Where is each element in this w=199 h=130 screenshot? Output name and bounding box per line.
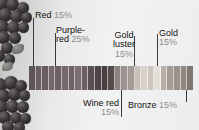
color-swatch-strip bbox=[29, 66, 193, 90]
swatch-14 bbox=[121, 66, 128, 90]
swatch-20 bbox=[161, 66, 168, 90]
swatch-1 bbox=[36, 66, 43, 90]
swatch-2 bbox=[42, 66, 49, 90]
swatch-16 bbox=[135, 66, 142, 90]
swatch-13 bbox=[115, 66, 122, 90]
callout-bronze-percent: 15% bbox=[159, 100, 177, 110]
callout-bronze-label: Bronze bbox=[128, 100, 157, 110]
swatch-9 bbox=[88, 66, 95, 90]
swatch-12 bbox=[108, 66, 115, 90]
swatch-7 bbox=[75, 66, 82, 90]
swatch-0 bbox=[29, 66, 36, 90]
callout-gold-percent: 15% bbox=[159, 38, 178, 47]
swatch-19 bbox=[154, 66, 161, 90]
swatch-5 bbox=[62, 66, 69, 90]
leader-line-wine-red bbox=[121, 90, 122, 117]
swatch-18 bbox=[148, 66, 155, 90]
callout-wine-red: Wine red 15% bbox=[63, 99, 119, 118]
callout-gold-luster-percent: 15% bbox=[113, 50, 135, 59]
callout-purple-red: Purple- red 25% bbox=[56, 26, 90, 45]
swatch-11 bbox=[102, 66, 109, 90]
swatch-17 bbox=[141, 66, 148, 90]
swatch-10 bbox=[95, 66, 102, 90]
leader-line-gold bbox=[157, 34, 158, 66]
callout-red-percent: 15% bbox=[54, 10, 72, 20]
leader-line-bronze bbox=[186, 90, 187, 102]
callout-purple-red-label-line2: red bbox=[56, 34, 69, 44]
callout-bronze: Bronze 15% bbox=[128, 101, 177, 110]
callout-gold-luster: Gold luster 15% bbox=[113, 31, 135, 59]
callout-red: Red 15% bbox=[35, 11, 72, 20]
swatch-8 bbox=[82, 66, 89, 90]
figure-canvas: Red 15% Purple- red 25% Gold luster 15% … bbox=[0, 0, 199, 130]
leader-line-red bbox=[33, 18, 34, 66]
swatch-4 bbox=[55, 66, 62, 90]
swatch-6 bbox=[69, 66, 76, 90]
swatch-21 bbox=[167, 66, 174, 90]
swatch-22 bbox=[174, 66, 181, 90]
swatch-3 bbox=[49, 66, 56, 90]
swatch-24 bbox=[187, 66, 193, 90]
callout-red-label: Red bbox=[35, 10, 52, 20]
callout-wine-red-percent: 15% bbox=[63, 108, 119, 117]
callout-purple-red-percent: 25% bbox=[72, 34, 90, 44]
swatch-23 bbox=[181, 66, 188, 90]
callout-gold: Gold 15% bbox=[159, 29, 178, 48]
swatch-15 bbox=[128, 66, 135, 90]
